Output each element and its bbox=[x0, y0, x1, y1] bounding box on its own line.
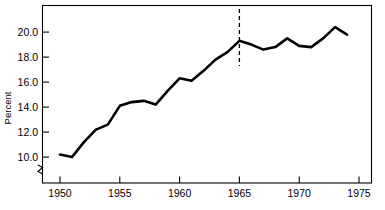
x-axis-ticks bbox=[60, 177, 359, 184]
y-tick-label-10: 10.0 bbox=[18, 151, 39, 163]
x-tick-label-1950: 1950 bbox=[48, 187, 72, 199]
x-tick-label-1965: 1965 bbox=[228, 187, 252, 199]
y-tick-label-12: 12.0 bbox=[18, 126, 39, 138]
y-tick-label-18: 18.0 bbox=[18, 51, 39, 63]
y-axis-ticks bbox=[43, 32, 50, 157]
x-tick-label-1970: 1970 bbox=[288, 187, 312, 199]
line-chart: 20.0 18.0 16.0 14.0 12.0 10.0 1950 1955 … bbox=[0, 0, 385, 210]
y-tick-label-14: 14.0 bbox=[18, 101, 39, 113]
plot-frame bbox=[43, 6, 372, 184]
x-tick-label-1960: 1960 bbox=[168, 187, 192, 199]
data-series-line bbox=[60, 27, 347, 157]
x-tick-label-1975: 1975 bbox=[347, 187, 371, 199]
y-axis-title: Percent bbox=[2, 91, 13, 124]
y-tick-label-16: 16.0 bbox=[18, 76, 39, 88]
x-tick-label-1955: 1955 bbox=[108, 187, 132, 199]
y-axis-break-icon bbox=[38, 165, 43, 174]
y-tick-label-20: 20.0 bbox=[18, 26, 39, 38]
chart-figure: 20.0 18.0 16.0 14.0 12.0 10.0 1950 1955 … bbox=[0, 0, 385, 210]
